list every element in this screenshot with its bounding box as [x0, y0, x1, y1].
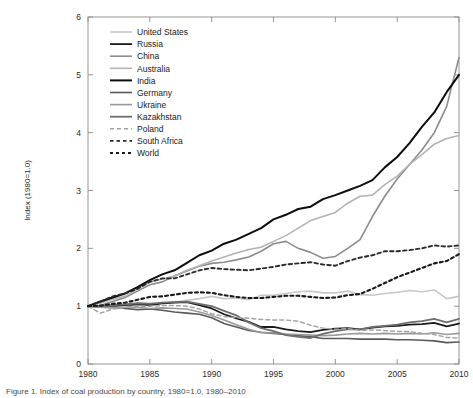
- y-tick-label: 4: [76, 128, 81, 138]
- x-tick-label: 1995: [264, 369, 283, 379]
- series-line-world: [88, 254, 459, 306]
- legend-label-united-states: United States: [137, 27, 188, 37]
- x-tick-label: 1980: [79, 369, 98, 379]
- legend-label-poland: Poland: [137, 124, 164, 134]
- figure-caption: Figure 1. Index of coal production by co…: [6, 386, 466, 396]
- legend-label-germany: Germany: [137, 88, 173, 98]
- x-tick-label: 2000: [326, 369, 345, 379]
- y-tick-label: 0: [76, 359, 81, 369]
- y-tick-label: 3: [76, 186, 81, 196]
- legend-label-kazakhstan: Kazakhstan: [137, 112, 182, 122]
- x-tick-label: 2010: [450, 369, 469, 379]
- legend-label-south-africa: South Africa: [137, 136, 183, 146]
- series-line-australia: [88, 136, 459, 307]
- y-axis-title: Index (1980=1.0): [23, 160, 32, 221]
- y-tick-label: 2: [76, 243, 81, 253]
- chart-figure: 19801985199019952000200520100123456Index…: [0, 0, 473, 398]
- y-tick-label: 1: [76, 301, 81, 311]
- x-tick-label: 1990: [202, 369, 221, 379]
- legend-label-russia: Russia: [137, 39, 163, 49]
- legend-label-india: India: [137, 76, 156, 86]
- legend-label-china: China: [137, 51, 159, 61]
- line-chart: 19801985199019952000200520100123456Index…: [0, 0, 473, 398]
- x-tick-label: 2005: [388, 369, 407, 379]
- legend-label-world: World: [137, 148, 159, 158]
- y-tick-label: 6: [76, 12, 81, 22]
- y-tick-label: 5: [76, 70, 81, 80]
- x-tick-label: 1985: [140, 369, 159, 379]
- legend-label-australia: Australia: [137, 64, 170, 74]
- legend-label-ukraine: Ukraine: [137, 100, 167, 110]
